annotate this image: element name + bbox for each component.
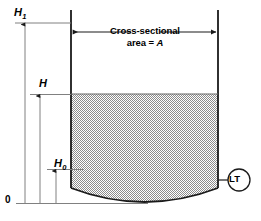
liquid-fill-region [71,94,218,202]
cross-sectional-area-label: Cross-sectionalarea = A [95,25,195,48]
area-label-variable: A [156,37,163,48]
datum-label-zero: 0 [5,195,11,205]
dimension-label-h: H [39,78,47,89]
dimension-label-h0: H0 [54,158,66,169]
area-label-line1: Cross-sectional [110,25,180,36]
tank-level-diagram: H1 H H0 0 Cross-sectionalarea = A LT [0,0,261,221]
area-label-line2-prefix: area = [127,37,157,48]
lt-bubble-label: LT [229,174,240,184]
dimension-label-h1: H1 [14,7,26,18]
